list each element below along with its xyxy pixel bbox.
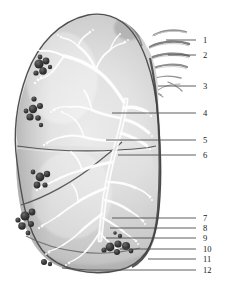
callout-label-5: 5 (203, 136, 207, 145)
callout-label-9: 9 (203, 234, 207, 243)
lung-figure (0, 0, 233, 292)
callout-label-12: 12 (203, 266, 212, 275)
rib-arc-8 (168, 82, 182, 91)
lung-illustration-svg (0, 0, 233, 292)
figure-caption (0, 282, 233, 292)
callout-label-10: 10 (203, 245, 212, 254)
callout-label-6: 6 (203, 151, 207, 160)
callout-label-8: 8 (203, 224, 207, 233)
callout-label-7: 7 (203, 214, 207, 223)
callout-label-11: 11 (203, 255, 211, 264)
callout-label-2: 2 (203, 51, 207, 60)
callout-label-1: 1 (203, 36, 207, 45)
callout-label-4: 4 (203, 109, 207, 118)
callout-label-3: 3 (203, 82, 207, 91)
